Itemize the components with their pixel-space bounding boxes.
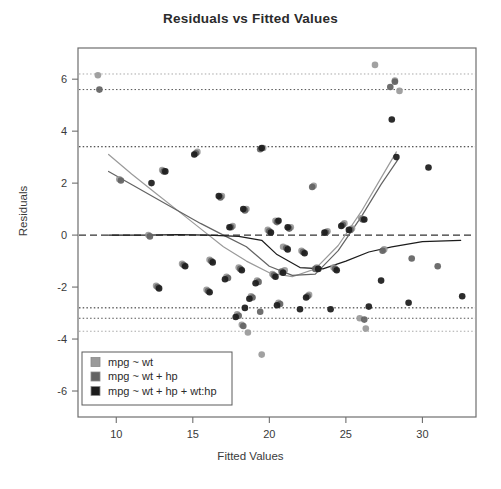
data-point [206,289,213,296]
data-point [379,247,386,254]
x-tick-label-15: 15 [187,428,199,440]
y-tick-label-4: 4 [61,125,67,137]
y-tick-label-6: 6 [61,73,67,85]
data-point [297,306,304,313]
data-point [363,325,370,332]
data-point [303,294,310,301]
data-point [216,193,223,200]
data-point [239,267,246,274]
data-point [425,164,432,171]
data-point [321,229,328,236]
data-point [284,246,291,253]
data-point [148,180,155,187]
legend-swatch-1 [91,372,100,381]
data-point [361,316,368,323]
data-point [147,233,154,240]
data-point [232,314,239,321]
x-tick-label-20: 20 [263,428,275,440]
data-point [257,309,264,316]
legend-label-2: mpg ~ wt + hp + wt:hp [108,385,217,397]
data-point [389,116,396,123]
data-point [162,168,169,175]
data-point [393,154,400,161]
data-point [392,79,399,86]
data-point [209,259,216,266]
data-point [333,267,340,274]
data-point [245,329,252,336]
data-point [252,280,259,287]
data-point [222,276,229,283]
legend-swatch-0 [91,358,100,367]
data-point [240,206,247,213]
x-tick-label-25: 25 [340,428,352,440]
data-point [191,151,198,158]
data-point [274,302,281,309]
data-point [96,86,103,93]
plot-canvas: 1015202530-6-4-20246mpg ~ wtmpg ~ wt + h… [0,0,501,489]
data-point [242,305,249,312]
data-point [95,72,102,79]
data-point [118,177,125,184]
data-point [387,84,394,91]
x-tick-label-30: 30 [416,428,428,440]
data-point [378,277,385,284]
data-point [258,145,265,152]
y-tick-label--6: -6 [57,385,67,397]
y-tick-label-0: 0 [61,229,67,241]
data-point [327,306,334,313]
data-point [226,224,233,231]
data-point [182,263,189,270]
data-point [459,293,466,300]
data-point [275,218,282,225]
data-point [272,273,279,280]
smoother-curve-2 [109,235,461,269]
y-tick-label--2: -2 [57,281,67,293]
x-tick-label-10: 10 [110,428,122,440]
legend-label-0: mpg ~ wt [108,356,153,368]
data-point [258,351,265,358]
data-point [372,62,379,69]
legend-label-1: mpg ~ wt + hp [108,370,178,382]
data-point [361,216,368,223]
data-point [309,184,316,191]
data-point [408,255,415,262]
residual-plot-figure: Residuals vs Fitted Values Residuals Fit… [0,0,501,489]
y-tick-label-2: 2 [61,177,67,189]
data-point [240,323,247,330]
data-point [405,299,412,306]
data-point [315,266,322,273]
data-point [156,285,163,292]
y-tick-label--4: -4 [57,333,67,345]
data-point [268,229,275,236]
data-point [280,270,287,277]
data-point [338,223,345,230]
data-point [366,303,373,310]
data-point [346,227,353,234]
data-point [284,224,291,231]
legend-swatch-2 [91,387,100,396]
data-point [434,263,441,270]
data-point [301,250,308,257]
data-point [246,296,253,303]
data-point [396,88,403,95]
